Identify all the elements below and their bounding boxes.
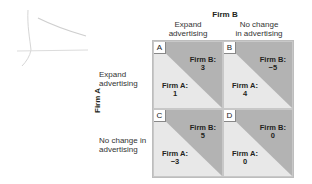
cell-d: D Firm B: 0 Firm A: 0 — [223, 109, 293, 177]
firm-a-payoff: Firm A: 1 — [162, 82, 188, 98]
payoff-matrix: A Firm B: 3 Firm A: 1 B Firm B: −5 Firm … — [152, 40, 294, 178]
firm-b-payoff: Firm B: 0 — [260, 124, 286, 140]
cell-letter: A — [154, 42, 166, 54]
row-header-expand: Expand advertising — [99, 70, 138, 88]
firm-b-payoff: Firm B: −5 — [260, 56, 286, 72]
firm-a-payoff: Firm A: 0 — [232, 150, 258, 166]
column-header-expand: Expand advertising — [152, 20, 224, 38]
firm-a-payoff: Firm A: −3 — [162, 150, 188, 166]
cell-a: A Firm B: 3 Firm A: 1 — [153, 41, 223, 109]
firm-b-payoff: Firm B: 5 — [190, 124, 216, 140]
cell-b: B Firm B: −5 Firm A: 4 — [223, 41, 293, 109]
pencil-sketch-mark — [0, 0, 100, 70]
cell-letter: D — [224, 110, 236, 122]
firm-a-title: Firm A — [93, 88, 102, 113]
cell-c: C Firm B: 5 Firm A: −3 — [153, 109, 223, 177]
cell-letter: B — [224, 42, 236, 54]
firm-b-title: Firm B — [212, 10, 237, 19]
firm-a-payoff: Firm A: 4 — [232, 82, 258, 98]
firm-b-payoff: Firm B: 3 — [190, 56, 216, 72]
column-header-no-change: No change in advertising — [223, 20, 295, 38]
cell-letter: C — [154, 110, 166, 122]
row-header-no-change: No change in advertising — [99, 136, 146, 154]
